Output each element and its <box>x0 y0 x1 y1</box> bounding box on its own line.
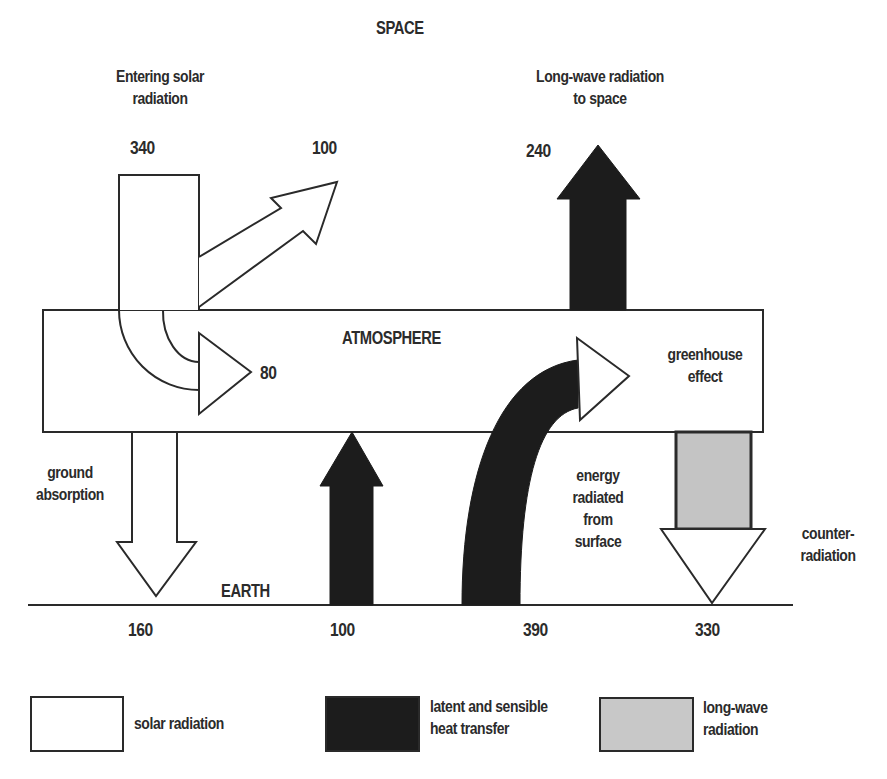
longwave-to-space-label: Long-wave radiation to space <box>522 66 678 110</box>
ground-absorption-value: 160 <box>128 619 153 641</box>
legend-label-solar: solar radiation <box>134 713 224 735</box>
ground-absorption-label-line2: absorption <box>25 484 115 506</box>
longwave-to-space-arrow <box>557 145 640 310</box>
surface-radiation-label-line1: energy <box>561 465 635 487</box>
absorbed-solar-value: 80 <box>260 362 277 384</box>
legend-label-heat-transfer: latent and sensible heat transfer <box>430 696 548 740</box>
legend-label-heat-transfer-line1: latent and sensible <box>430 696 548 718</box>
ground-absorption-arrow <box>117 432 196 596</box>
longwave-to-space-label-line2: to space <box>522 88 678 110</box>
counter-radiation-longwave-box <box>676 432 751 529</box>
legend-label-longwave-line2: radiation <box>703 719 767 741</box>
entering-solar-label: Entering solar radiation <box>103 66 218 110</box>
surface-radiation-label-line3: from <box>561 509 635 531</box>
legend-swatch-solar <box>31 697 123 751</box>
legend-swatch-heat-transfer <box>326 697 419 751</box>
counter-radiation-label: counter- radiation <box>783 523 873 567</box>
energy-balance-diagram: SPACE Entering solar radiation 340 100 L… <box>0 0 887 779</box>
greenhouse-label: greenhouse effect <box>660 344 750 388</box>
earth-label: EARTH <box>221 580 270 602</box>
counter-radiation-arrowhead <box>661 529 765 603</box>
space-label: SPACE <box>376 17 424 39</box>
counter-radiation-value: 330 <box>695 619 720 641</box>
surface-radiation-label: energy radiated from surface <box>561 465 635 553</box>
ground-absorption-label: ground absorption <box>25 462 115 506</box>
legend-swatch-longwave <box>600 698 693 751</box>
longwave-to-space-label-line1: Long-wave radiation <box>522 66 678 88</box>
legend-label-heat-transfer-line2: heat transfer <box>430 718 548 740</box>
ground-absorption-label-line1: ground <box>25 462 115 484</box>
diagram-canvas <box>0 0 887 779</box>
heat-transfer-arrow <box>320 432 383 605</box>
heat-transfer-value: 100 <box>330 619 355 641</box>
greenhouse-label-line1: greenhouse <box>660 344 750 366</box>
reflected-solar-value: 100 <box>312 137 337 159</box>
surface-radiation-label-line2: radiated <box>561 487 635 509</box>
entering-solar-value: 340 <box>130 137 155 159</box>
surface-radiation-label-line4: surface <box>561 531 635 553</box>
entering-solar-column <box>119 175 199 310</box>
atmosphere-label: ATMOSPHERE <box>342 327 441 349</box>
entering-solar-label-line2: radiation <box>103 88 218 110</box>
legend-label-longwave: long-wave radiation <box>703 697 767 741</box>
counter-radiation-label-line1: counter- <box>783 523 873 545</box>
counter-radiation-label-line2: radiation <box>783 545 873 567</box>
longwave-to-space-value: 240 <box>526 140 551 162</box>
surface-radiation-value: 390 <box>523 619 548 641</box>
greenhouse-label-line2: effect <box>660 366 750 388</box>
entering-solar-label-line1: Entering solar <box>103 66 218 88</box>
reflected-solar-arrow <box>199 182 337 307</box>
legend-label-longwave-line1: long-wave <box>703 697 767 719</box>
